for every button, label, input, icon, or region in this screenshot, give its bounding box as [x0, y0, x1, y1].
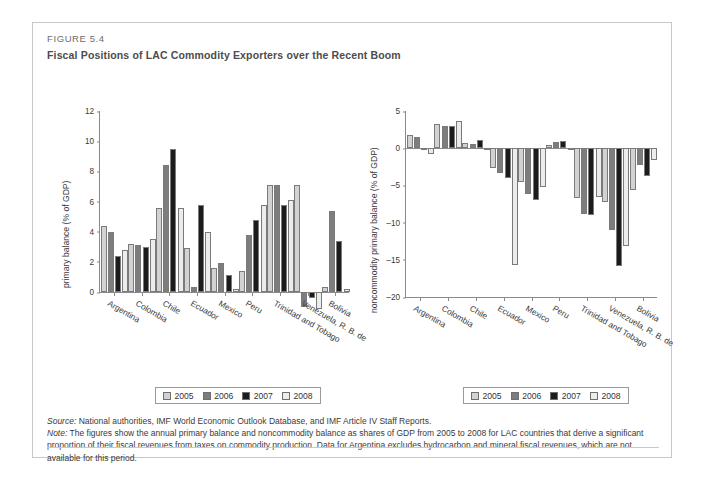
bar-2006 — [553, 142, 559, 149]
y-axis-tick-label: 0 — [89, 288, 100, 297]
bar-2007 — [560, 141, 566, 148]
legend-label-2008: 2008 — [293, 391, 312, 401]
legend-swatch-2008 — [282, 392, 290, 400]
bar-2006 — [414, 137, 420, 148]
y-axis-tick-label: 4 — [89, 227, 100, 236]
y-axis-tick-label: 10 — [85, 137, 100, 146]
y-axis-title-right: noncommodity primary balance (% of GDP) — [369, 147, 379, 313]
x-axis-tick — [114, 292, 115, 296]
bar-2006 — [246, 235, 252, 292]
bar-2006 — [497, 148, 503, 173]
x-axis-tick — [504, 297, 505, 301]
bar-2007 — [143, 247, 149, 292]
x-axis-tick — [197, 292, 198, 296]
bar-group — [128, 111, 156, 292]
bar-2006 — [470, 144, 476, 148]
legend-swatch-2007 — [242, 392, 250, 400]
bar-2008 — [651, 148, 657, 160]
x-axis-label-mexico: Mexico — [524, 303, 552, 325]
bar-group — [155, 111, 183, 292]
bar-group — [211, 111, 239, 292]
legend-label-2005: 2005 — [175, 391, 194, 401]
bar-2006 — [637, 148, 643, 165]
bar-2005 — [574, 148, 580, 198]
legend-item: 2005 — [471, 391, 502, 401]
x-axis-tick — [169, 292, 170, 296]
bar-2007 — [533, 148, 539, 199]
x-axis-tick — [308, 292, 309, 296]
y-axis-tick-label: 5 — [395, 107, 406, 116]
bar-2007 — [253, 220, 259, 292]
x-axis-label-peru: Peru — [244, 298, 264, 315]
note-label: Note: — [47, 428, 67, 438]
x-axis-tick — [587, 297, 588, 301]
x-axis-tick — [448, 297, 449, 301]
bar-2006 — [135, 245, 141, 292]
bar-2005 — [546, 145, 552, 148]
legend-item: 2007 — [242, 391, 273, 401]
bar-2005 — [602, 148, 608, 202]
bar-2006 — [442, 126, 448, 148]
x-axis-label-ecuador: Ecuador — [189, 298, 221, 322]
legend-label-2006: 2006 — [522, 391, 541, 401]
bar-2005 — [184, 248, 190, 292]
source-label: Source: — [47, 416, 76, 426]
x-axis-tick — [559, 297, 560, 301]
y-axis-tick-label: –10 — [386, 218, 406, 227]
bar-2007 — [115, 256, 121, 292]
bar-2007 — [588, 148, 594, 215]
bar-2006 — [329, 211, 335, 292]
legend-label-2005: 2005 — [483, 391, 502, 401]
bar-group — [629, 111, 657, 297]
x-axis-tick — [643, 297, 644, 301]
figure-title: Fiscal Positions of LAC Commodity Export… — [47, 49, 401, 61]
bar-2006 — [218, 263, 224, 292]
y-axis-tick-label: 0 — [395, 144, 406, 153]
legend-left: 2005200620072008 — [155, 387, 321, 404]
bar-2006 — [163, 165, 169, 292]
bar-2006 — [581, 148, 587, 214]
bar-group — [462, 111, 490, 297]
bar-group — [294, 111, 322, 292]
bar-group — [490, 111, 518, 297]
legend-swatch-2005 — [471, 392, 479, 400]
legend-swatch-2005 — [163, 392, 171, 400]
x-axis-tick — [225, 292, 226, 296]
bar-2005 — [434, 124, 440, 148]
legend-item: 2006 — [203, 391, 234, 401]
y-axis-tick-label: 2 — [89, 257, 100, 266]
bar-2005 — [518, 148, 524, 182]
legend-label-2007: 2007 — [254, 391, 273, 401]
y-axis-tick-label: –20 — [386, 293, 406, 302]
bar-2006 — [274, 185, 280, 292]
bar-group — [601, 111, 629, 297]
divider-rule — [47, 447, 659, 448]
plot-area-left: 024681012ArgentinaColombiaChileEcuadorMe… — [99, 111, 349, 293]
chart-panel-primary-balance: primary balance (% of GDP) 024681012Arge… — [51, 83, 357, 363]
x-axis-tick — [252, 292, 253, 296]
bar-2005 — [294, 185, 300, 292]
figure-notes: Source: National authorities, IMF World … — [47, 415, 659, 464]
y-axis-title-left: primary balance (% of GDP) — [61, 181, 71, 288]
note-text: The figures show the annual primary bala… — [47, 428, 643, 462]
x-axis-tick — [335, 292, 336, 296]
y-axis-tick-label: –15 — [386, 255, 406, 264]
bar-2007 — [616, 148, 622, 266]
chart-panel-noncommodity-balance: noncommodity primary balance (% of GDP) … — [363, 83, 663, 363]
legend-item: 2006 — [511, 391, 542, 401]
bar-2005 — [630, 148, 636, 190]
bar-2007 — [477, 140, 483, 148]
bar-2005 — [462, 143, 468, 148]
bar-group — [573, 111, 601, 297]
x-axis-tick — [420, 297, 421, 301]
x-axis-label-ecuador: Ecuador — [496, 303, 528, 327]
x-axis-tick — [280, 292, 281, 296]
bar-2005 — [211, 268, 217, 292]
legend-right: 2005200620072008 — [463, 387, 629, 404]
note-line: Note: The figures show the annual primar… — [47, 427, 659, 464]
bar-2005 — [156, 208, 162, 292]
bar-2007 — [170, 149, 176, 292]
bar-2006 — [525, 148, 531, 194]
x-axis-tick — [476, 297, 477, 301]
legend-item: 2008 — [590, 391, 621, 401]
